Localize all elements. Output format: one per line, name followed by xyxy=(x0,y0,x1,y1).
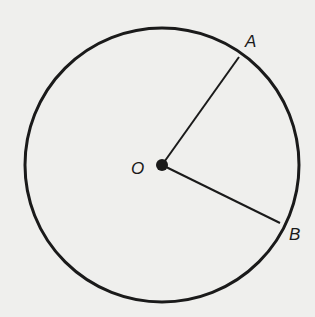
label-o: O xyxy=(131,159,144,178)
diagram-svg: O A B xyxy=(0,0,315,317)
center-point-o xyxy=(156,159,168,171)
label-a: A xyxy=(244,32,256,51)
radius-oa xyxy=(162,57,239,165)
circle-diagram: O A B xyxy=(0,0,315,317)
label-b: B xyxy=(289,225,300,244)
radius-ob xyxy=(162,165,280,223)
